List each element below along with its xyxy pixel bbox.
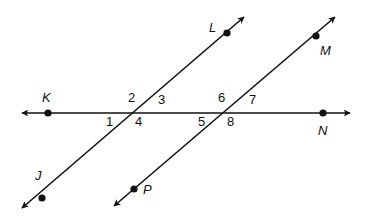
point-dot-m	[312, 32, 319, 39]
angle-label-2: 2	[128, 90, 135, 105]
angle-label-6: 6	[218, 90, 225, 105]
point-label-k: K	[42, 90, 52, 105]
point-label-l: L	[209, 20, 216, 35]
point-label-n: N	[318, 123, 328, 138]
point-dot-l	[223, 29, 230, 36]
line-mp	[114, 17, 335, 206]
point-label-j: J	[34, 168, 42, 183]
point-dot-n	[319, 109, 326, 116]
point-dot-k	[44, 109, 51, 116]
lines	[22, 17, 350, 208]
points: KNLMJP	[34, 20, 331, 202]
parallel-lines-diagram: KNLMJP 12345678	[0, 0, 369, 221]
point-dot-j	[38, 194, 45, 201]
angle-label-5: 5	[198, 114, 205, 129]
point-label-p: P	[143, 182, 152, 197]
point-dot-p	[130, 185, 137, 192]
angle-label-3: 3	[158, 92, 165, 107]
angle-label-8: 8	[227, 114, 234, 129]
point-label-m: M	[320, 43, 331, 58]
angle-label-4: 4	[135, 114, 142, 129]
angle-labels: 12345678	[106, 90, 256, 129]
angle-label-1: 1	[106, 114, 113, 129]
angle-label-7: 7	[249, 92, 256, 107]
